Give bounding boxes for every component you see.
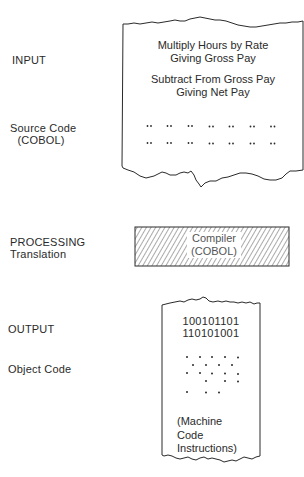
source-code-label: Source Code (COBOL) (10, 122, 72, 146)
source-code-label-line1: Source Code (10, 122, 72, 134)
compiler-label: Compiler (COBOL) (187, 232, 241, 258)
binary-code: 100101101 110101001 (172, 315, 250, 339)
note-line: Instructions) (177, 442, 237, 456)
processing-stage-label: PROCESSING (10, 236, 85, 248)
source-code-statement-2: Subtract From Gross Pay Giving Net Pay (133, 73, 293, 98)
statement-line: Giving Net Pay (133, 86, 293, 98)
object-code-label: Object Code (8, 363, 71, 375)
note-line: Code (177, 429, 237, 443)
input-stage-label: INPUT (12, 54, 46, 66)
binary-line: 110101001 (172, 327, 250, 339)
statement-line: Subtract From Gross Pay (133, 73, 293, 85)
compiler-label-line1: Compiler (187, 232, 241, 245)
compiler-label-line2: (COBOL) (187, 245, 241, 258)
translation-label: Translation (10, 248, 66, 260)
machine-code-note: (Machine Code Instructions) (177, 415, 237, 456)
note-line: (Machine (177, 415, 237, 429)
source-code-label-line2: (COBOL) (10, 134, 72, 146)
statement-line: Giving Gross Pay (133, 52, 293, 64)
statement-line: Multiply Hours by Rate (133, 39, 293, 51)
output-stage-label: OUTPUT (8, 323, 54, 335)
binary-line: 100101101 (172, 315, 250, 327)
source-code-statement-1: Multiply Hours by Rate Giving Gross Pay (133, 39, 293, 64)
